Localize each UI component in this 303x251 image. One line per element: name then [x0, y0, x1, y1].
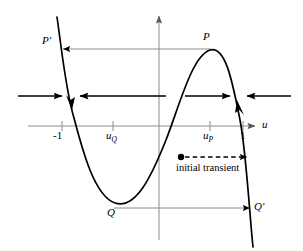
tick-label-u-P: uP	[203, 130, 213, 144]
tick-label-minus-one: -1	[53, 130, 62, 141]
label-Q-text: Q	[107, 206, 115, 218]
cubic-curve-group	[57, 17, 253, 247]
initial-transient-group	[178, 154, 247, 160]
tick-label-one: 1	[240, 130, 246, 141]
leader-line-group	[63, 49, 250, 208]
tick-label-u-Q: uQ	[106, 130, 117, 144]
label-P: P	[203, 31, 210, 42]
label-P-prime: P′	[42, 35, 51, 46]
label-Q-prime-text: Q	[254, 200, 262, 212]
tick-label-u-Q-sub: Q	[112, 135, 117, 144]
cubic-nullcline-curve	[57, 17, 253, 247]
initial-transient-dot	[178, 154, 184, 160]
label-Q-prime: Q′	[254, 201, 264, 212]
tick-label-u-P-sub: P	[209, 135, 214, 144]
label-Q: Q	[107, 207, 115, 218]
phase-line-figure: P′ P Q Q′ -1 uQ uP 1 u initial transient	[0, 0, 303, 251]
axis-label-u: u	[262, 119, 268, 130]
curve-direction-arrow-group	[66, 95, 244, 115]
label-P-prime-text: P	[42, 34, 49, 46]
label-P-text: P	[203, 30, 210, 42]
initial-transient-label: initial transient	[176, 163, 239, 174]
